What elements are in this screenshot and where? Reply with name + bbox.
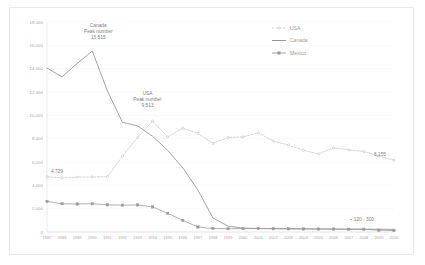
annotation-line: Peak number (84, 29, 113, 34)
x-axis-tick-label: 2006 (329, 235, 339, 240)
data-point-marker (272, 228, 274, 230)
data-point-marker (302, 228, 304, 230)
y-axis-tick-label: 8,000 (32, 136, 44, 141)
line-chart: 02,0004,0006,0008,00010,00012,00014,0001… (0, 0, 425, 265)
annotation-line: 6,155 (374, 152, 386, 157)
y-axis-tick-label: 4,000 (32, 183, 44, 188)
x-axis-tick-label: 1990 (88, 235, 98, 240)
legend-label: USA (290, 25, 301, 31)
data-point-marker (212, 142, 214, 144)
data-point-marker (333, 147, 335, 149)
data-point-marker (378, 229, 380, 231)
annotation-line: 9,513 (142, 103, 154, 108)
x-axis-tick-label: 2009 (374, 235, 384, 240)
data-point-marker (242, 227, 244, 229)
x-axis-tick-label: 2008 (359, 235, 369, 240)
data-point-marker (182, 219, 184, 221)
data-point-marker (317, 153, 319, 155)
data-point-marker (91, 176, 93, 178)
chart-screenshot: 02,0004,0006,0008,00010,00012,00014,0001… (0, 0, 425, 265)
x-axis-tick-label: 1994 (148, 235, 158, 240)
x-axis-tick-label: 1999 (224, 235, 234, 240)
legend-marker (278, 52, 280, 54)
x-axis-tick-labels: 1987198819891990199119921993199419951996… (43, 235, 400, 240)
data-point-marker (393, 229, 395, 231)
legend-item-usa[interactable]: USA (272, 25, 301, 31)
annotation-canada-peak: CanadaPeak number15,515 (84, 23, 113, 40)
x-axis-tick-label: 1996 (178, 235, 188, 240)
data-point-marker (272, 140, 274, 142)
x-axis-tick-label: 2001 (254, 235, 264, 240)
legend-label: Canada (290, 37, 308, 43)
data-point-marker (121, 204, 123, 206)
chart-plot-svg: 02,0004,0006,0008,00010,00012,00014,0001… (0, 0, 425, 265)
x-axis-tick-label: 2003 (284, 235, 294, 240)
data-point-marker (182, 127, 184, 129)
annotation-line: ~ 120 - 300 (350, 217, 375, 222)
data-point-marker (106, 176, 108, 178)
data-point-marker (348, 149, 350, 151)
axis-lines (47, 22, 394, 232)
annotation-line: USA (143, 91, 154, 96)
data-point-marker (197, 226, 199, 228)
data-point-marker (197, 132, 199, 134)
x-axis-tick-label: 1995 (163, 235, 173, 240)
x-axis-tick-label: 1993 (133, 235, 143, 240)
y-axis-tick-label: 14,000 (30, 66, 44, 71)
x-axis-tick-label: 1987 (43, 235, 53, 240)
legend-item-mexico[interactable]: Mexico (272, 50, 306, 56)
y-axis-tick-label: 0 (41, 230, 44, 235)
series-line (47, 201, 394, 230)
data-point-marker (393, 159, 395, 161)
data-point-marker (166, 212, 168, 214)
data-point-marker (121, 155, 123, 157)
data-point-marker (76, 203, 78, 205)
data-point-marker (136, 204, 138, 206)
x-axis-tick-label: 1992 (118, 235, 128, 240)
y-axis-tick-label: 10,000 (30, 113, 44, 118)
data-point-marker (302, 149, 304, 151)
data-point-marker (227, 136, 229, 138)
data-point-marker (46, 176, 48, 178)
legend-label: Mexico (290, 50, 306, 56)
data-point-marker (76, 176, 78, 178)
y-axis-tick-label: 2,000 (32, 206, 44, 211)
series-mexico (46, 200, 395, 232)
annotation-line: Peak number (133, 97, 162, 102)
data-point-marker (136, 136, 138, 138)
data-point-marker (167, 136, 169, 138)
data-point-marker (317, 228, 319, 230)
annotation-line: 4,729 (51, 169, 63, 174)
y-axis-tick-label: 16,000 (30, 43, 44, 48)
x-axis-tick-label: 2010 (390, 235, 400, 240)
annotations-group: CanadaPeak number15,515USAPeak number9,5… (51, 23, 386, 222)
data-point-marker (61, 203, 63, 205)
x-axis-tick-label: 2002 (269, 235, 279, 240)
y-axis-tick-label: 6,000 (32, 160, 44, 165)
data-series-group (46, 51, 395, 232)
y-axis-tick-label: 18,000 (30, 20, 44, 25)
data-point-marker (227, 228, 229, 230)
data-point-marker (152, 120, 154, 122)
legend-marker (278, 27, 280, 29)
x-axis-tick-label: 2005 (314, 235, 324, 240)
data-point-marker (46, 200, 48, 202)
x-axis-tick-label: 1989 (73, 235, 83, 240)
annotation-usa-start-label: 4,729 (51, 169, 63, 174)
x-axis-tick-label: 2004 (299, 235, 309, 240)
x-axis-tick-label: 1998 (209, 235, 219, 240)
data-point-marker (257, 132, 259, 134)
data-point-marker (332, 228, 334, 230)
x-axis-tick-label: 2007 (344, 235, 354, 240)
data-point-marker (287, 144, 289, 146)
data-point-marker (363, 228, 365, 230)
data-point-marker (106, 204, 108, 206)
data-point-marker (212, 227, 214, 229)
data-point-marker (363, 150, 365, 152)
legend-item-canada[interactable]: Canada (272, 37, 308, 43)
data-point-marker (287, 228, 289, 230)
x-axis-tick-label: 1988 (58, 235, 68, 240)
annotation-line: Canada (90, 23, 107, 28)
chart-legend: USACanadaMexico (272, 25, 308, 56)
data-point-marker (242, 136, 244, 138)
